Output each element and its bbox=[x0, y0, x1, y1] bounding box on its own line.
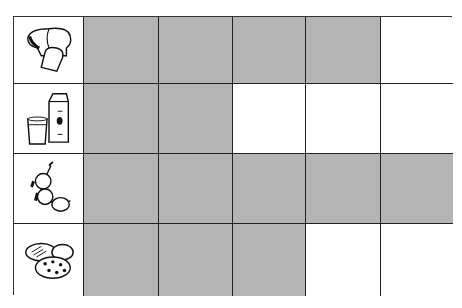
row-icon-cell-milk bbox=[14, 84, 84, 154]
shaded-cell-bread-4 bbox=[306, 17, 381, 84]
row-icon-cell-bread bbox=[14, 17, 84, 84]
shaded-cell-bread-3 bbox=[233, 17, 306, 84]
cookies-icon bbox=[20, 229, 78, 291]
fruit-icon bbox=[20, 158, 78, 220]
shaded-cell-fruit-1 bbox=[84, 154, 159, 224]
shaded-cell-fruit-5 bbox=[381, 154, 453, 224]
shaded-cell-cookies-2 bbox=[159, 224, 233, 296]
row-icon-cell-fruit bbox=[14, 154, 84, 224]
empty-cell-cookies-5 bbox=[381, 224, 453, 296]
shaded-cell-bread-1 bbox=[84, 17, 159, 84]
pictograph-chart bbox=[13, 16, 452, 295]
bread-icon bbox=[20, 19, 78, 81]
row-icon-cell-cookies bbox=[14, 224, 84, 296]
empty-cell-milk-4 bbox=[306, 84, 381, 154]
shaded-cell-milk-2 bbox=[159, 84, 233, 154]
shaded-cell-cookies-3 bbox=[233, 224, 306, 296]
empty-cell-milk-5 bbox=[381, 84, 453, 154]
shaded-cell-fruit-4 bbox=[306, 154, 381, 224]
shaded-cell-fruit-3 bbox=[233, 154, 306, 224]
shaded-cell-bread-2 bbox=[159, 17, 233, 84]
empty-cell-cookies-4 bbox=[306, 224, 381, 296]
shaded-cell-milk-1 bbox=[84, 84, 159, 154]
empty-cell-bread-5 bbox=[381, 17, 453, 84]
shaded-cell-cookies-1 bbox=[84, 224, 159, 296]
shaded-cell-fruit-2 bbox=[159, 154, 233, 224]
empty-cell-milk-3 bbox=[233, 84, 306, 154]
milk-icon bbox=[20, 88, 78, 150]
